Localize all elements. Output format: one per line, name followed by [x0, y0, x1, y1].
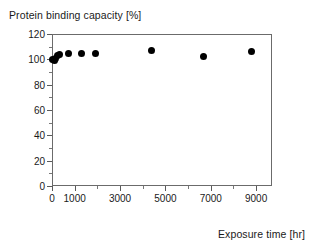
y-tick-minor — [49, 72, 52, 73]
y-tick-label: 100 — [28, 54, 45, 65]
x-tick-label: 7000 — [200, 193, 222, 204]
y-tick-major — [47, 85, 52, 86]
y-tick-label: 40 — [34, 130, 45, 141]
x-tick-label: 5000 — [154, 193, 176, 204]
chart-figure: Protein binding capacity [%] 02040608010… — [0, 0, 330, 252]
data-point — [56, 51, 63, 58]
x-tick-minor — [143, 186, 144, 189]
y-tick-major — [47, 135, 52, 136]
y-tick-label: 20 — [34, 155, 45, 166]
x-tick-major — [120, 186, 121, 191]
x-tick-minor — [188, 186, 189, 189]
x-tick-minor — [97, 186, 98, 189]
data-point — [92, 50, 99, 57]
x-tick-major — [75, 186, 76, 191]
x-tick-major — [165, 186, 166, 191]
plot-frame — [52, 34, 272, 186]
y-tick-major — [47, 34, 52, 35]
x-tick-major — [211, 186, 212, 191]
plot-area: 020406080100120 010003000500070009000 — [52, 34, 272, 186]
x-tick-minor — [233, 186, 234, 189]
data-point — [65, 50, 72, 57]
x-tick-label: 1000 — [64, 193, 86, 204]
x-tick-label: 0 — [49, 193, 55, 204]
y-tick-label: 80 — [34, 79, 45, 90]
y-tick-label: 0 — [39, 181, 45, 192]
y-tick-minor — [49, 148, 52, 149]
y-axis-title: Protein binding capacity [%] — [9, 9, 141, 21]
y-tick-label: 60 — [34, 105, 45, 116]
y-tick-minor — [49, 47, 52, 48]
x-tick-label: 3000 — [109, 193, 131, 204]
y-tick-minor — [49, 97, 52, 98]
x-tick-major — [52, 186, 53, 191]
y-tick-label: 120 — [28, 29, 45, 40]
y-tick-minor — [49, 173, 52, 174]
x-tick-label: 9000 — [245, 193, 267, 204]
y-tick-minor — [49, 123, 52, 124]
x-tick-major — [256, 186, 257, 191]
data-point — [78, 50, 85, 57]
x-axis-title: Exposure time [hr] — [218, 228, 305, 240]
y-tick-major — [47, 161, 52, 162]
y-tick-major — [47, 110, 52, 111]
